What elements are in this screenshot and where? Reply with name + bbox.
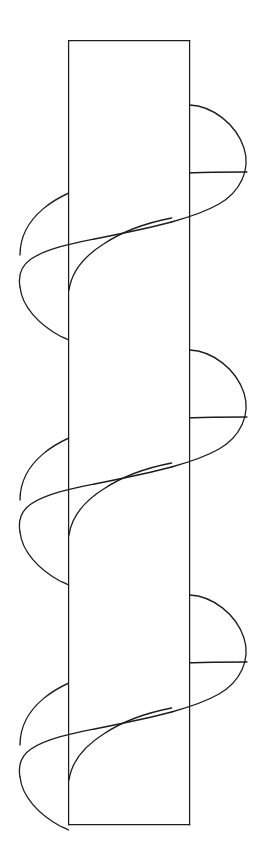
- figure-canvas: Helix wrapped around a rectangular band: [0, 0, 267, 856]
- band-occluder: [69, 41, 190, 825]
- helix-band-drawing: [0, 0, 267, 856]
